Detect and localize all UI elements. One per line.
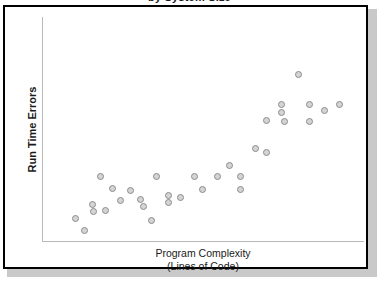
scatter-point bbox=[81, 227, 88, 234]
scatter-point bbox=[214, 173, 221, 180]
scatter-point bbox=[89, 201, 96, 208]
scatter-point bbox=[153, 173, 160, 180]
x-axis-title: Program Complexity (Lines of Code) bbox=[42, 247, 364, 273]
scatter-point bbox=[117, 197, 124, 204]
y-axis-title: Run Time Errors bbox=[26, 17, 42, 242]
chart-title: by System Size bbox=[0, 0, 379, 3]
scatter-point bbox=[191, 173, 198, 180]
scatter-point bbox=[165, 199, 172, 206]
scatter-point bbox=[140, 203, 147, 210]
scatter-point bbox=[237, 186, 244, 193]
scatter-point bbox=[321, 107, 328, 114]
scatter-point bbox=[278, 101, 285, 108]
scatter-point bbox=[263, 117, 270, 124]
scatter-point bbox=[295, 71, 302, 78]
scatter-plot-area bbox=[42, 17, 364, 242]
scatter-point bbox=[177, 194, 184, 201]
scatter-point bbox=[306, 118, 313, 125]
scatter-point bbox=[226, 162, 233, 169]
scatter-point bbox=[281, 118, 288, 125]
scatter-point bbox=[102, 207, 109, 214]
scatter-point bbox=[72, 215, 79, 222]
scatter-point bbox=[252, 145, 259, 152]
x-axis-title-line2: (Lines of Code) bbox=[42, 260, 364, 273]
scatter-point bbox=[237, 173, 244, 180]
scatter-point bbox=[199, 186, 206, 193]
scatter-point bbox=[165, 192, 172, 199]
scatter-point bbox=[127, 187, 134, 194]
scatter-point bbox=[278, 109, 285, 116]
scatter-point bbox=[148, 217, 155, 224]
scatter-point bbox=[263, 149, 270, 156]
scatter-point bbox=[109, 185, 116, 192]
x-axis-title-line1: Program Complexity bbox=[42, 247, 364, 260]
scatter-point bbox=[306, 101, 313, 108]
scatter-point bbox=[336, 101, 343, 108]
scatter-point bbox=[97, 173, 104, 180]
scatter-point bbox=[90, 208, 97, 215]
